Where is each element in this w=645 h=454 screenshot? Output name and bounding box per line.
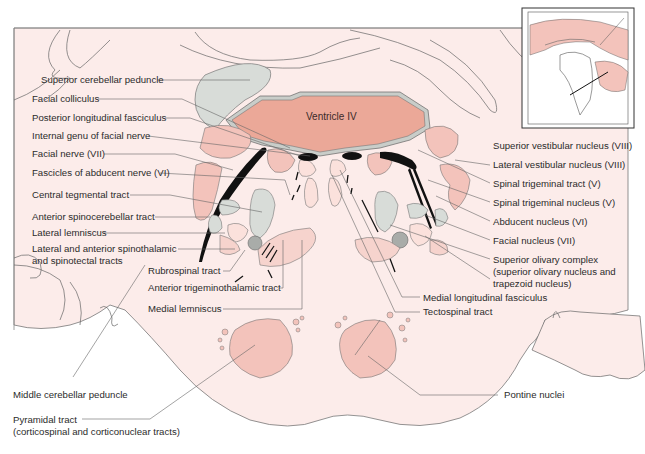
label-facial-nerve: Facial nerve (VII) xyxy=(32,148,105,160)
label-pontine-nuclei: Pontine nuclei xyxy=(504,389,564,401)
figure: Ventricle IV Superior cerebellar peduncl… xyxy=(0,0,645,454)
label-tectospinal-tract: Tectospinal tract xyxy=(423,306,492,318)
label-pyramidal-tract: Pyramidal tract (corticospinal and corti… xyxy=(13,414,180,438)
label-fascicles-abducent-nerve: Fascicles of abducent nerve (VI) xyxy=(32,167,170,179)
label-abducent-nucleus: Abducent nucleus (VI) xyxy=(493,216,587,228)
label-superior-olivary-complex: Superior olivary complex (superior oliva… xyxy=(493,254,616,290)
label-spinal-trigeminal-nucleus: Spinal trigeminal nucleus (V) xyxy=(493,197,615,209)
label-facial-colliculus: Facial colliculus xyxy=(32,93,99,105)
label-spinal-trigeminal-tract: Spinal trigeminal tract (V) xyxy=(493,178,601,190)
label-posterior-longitudinal-fasciculus: Posterior longitudinal fasciculus xyxy=(32,112,166,124)
label-lateral-vestibular-nucleus: Lateral vestibular nucleus (VIII) xyxy=(493,159,625,171)
label-central-tegmental-tract: Central tegmental tract xyxy=(32,189,129,201)
label-lateral-lemniscus: Lateral lemniscus xyxy=(32,227,107,239)
label-rubrospinal-tract: Rubrospinal tract xyxy=(148,265,221,277)
label-facial-nucleus: Facial nucleus (VII) xyxy=(493,235,575,247)
right-cerebellar-lobule-outline xyxy=(532,311,645,379)
label-medial-lemniscus: Medial lemniscus xyxy=(148,303,222,315)
label-superior-vestibular-nucleus: Superior vestibular nucleus (VIII) xyxy=(493,140,632,152)
label-superior-cerebellar-peduncle: Superior cerebellar peduncle xyxy=(41,74,164,86)
label-anterior-spinocerebellar-tract: Anterior spinocerebellar tract xyxy=(32,211,155,223)
label-anterior-trigeminothalamic-tract: Anterior trigeminothalamic tract xyxy=(148,282,281,294)
ventricle-iv-label: Ventricle IV xyxy=(306,111,357,122)
label-spinothalamic-spinotectal-tracts: Lateral and anterior spinothalamic and s… xyxy=(32,243,177,267)
label-medial-longitudinal-fasciculus: Medial longitudinal fasciculus xyxy=(423,292,547,304)
label-middle-cerebellar-peduncle: Middle cerebellar peduncle xyxy=(13,389,128,401)
label-internal-genu-facial-nerve: Internal genu of facial nerve xyxy=(32,130,150,142)
inset-sagittal-view xyxy=(522,8,634,128)
